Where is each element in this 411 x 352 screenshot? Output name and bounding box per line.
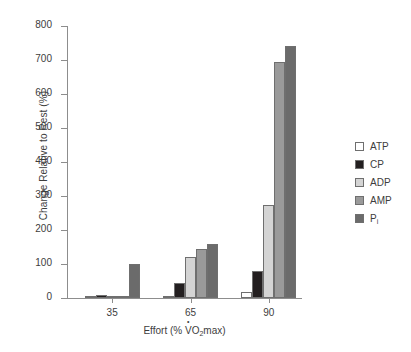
- y-axis-tick: 800: [61, 26, 67, 27]
- bar-cp-90: [252, 271, 263, 298]
- legend-item-amp[interactable]: AMP: [355, 191, 392, 209]
- bar-cp-35: [96, 295, 107, 298]
- bar-pi-35: [129, 264, 140, 298]
- y-axis-tick: 500: [61, 128, 67, 129]
- y-axis-tick-label: 400: [35, 155, 52, 166]
- y-axis-tick-label: 0: [46, 291, 52, 302]
- y-axis-tick: 300: [61, 196, 67, 197]
- bar-amp-90: [274, 62, 285, 298]
- bar-pi-65: [207, 244, 218, 298]
- x-axis-title-suffix: max): [203, 325, 225, 336]
- x-axis-tick-label: 65: [185, 307, 196, 318]
- y-axis-tick: 0: [61, 298, 67, 299]
- bar-adp-65: [185, 257, 196, 298]
- y-axis-tick-label: 700: [35, 53, 52, 64]
- bar-adp-35: [107, 296, 118, 298]
- bar-amp-35: [118, 296, 129, 298]
- y-axis-tick-label: 100: [35, 257, 52, 268]
- chart-figure: Change Relative to Rest (%) 010020030040…: [0, 0, 411, 352]
- bar-cp-65: [174, 283, 185, 298]
- bar-adp-90: [263, 205, 274, 298]
- vdot-icon: V: [185, 325, 192, 336]
- legend-item-pi[interactable]: Pi: [355, 209, 392, 227]
- x-axis-tick-label: 90: [263, 307, 274, 318]
- x-axis-tick: [112, 298, 113, 303]
- x-axis-title-prefix: Effort (%: [143, 325, 185, 336]
- bar-atp-35: [85, 296, 96, 298]
- legend-subscript: i: [377, 218, 379, 225]
- x-axis-line: [67, 298, 302, 299]
- plot-area: 0100200300400500600700800 356590: [67, 26, 302, 298]
- legend-swatch-icon: [355, 196, 364, 205]
- legend-swatch-icon: [355, 214, 364, 223]
- y-axis-tick-label: 300: [35, 189, 52, 200]
- legend-item-label: Pi: [370, 213, 378, 224]
- chart-legend: ATPCPADPAMPPi: [355, 137, 392, 227]
- legend-item-label: ADP: [370, 177, 391, 188]
- y-axis-tick-label: 600: [35, 87, 52, 98]
- x-axis-title: Effort (% VO2max): [67, 325, 302, 336]
- x-axis-tick-label: 35: [107, 307, 118, 318]
- y-axis-tick: 200: [61, 230, 67, 231]
- legend-swatch-icon: [355, 142, 364, 151]
- legend-item-adp[interactable]: ADP: [355, 173, 392, 191]
- bar-amp-65: [196, 249, 207, 298]
- legend-item-atp[interactable]: ATP: [355, 137, 392, 155]
- y-axis-tick: 700: [61, 60, 67, 61]
- legend-item-cp[interactable]: CP: [355, 155, 392, 173]
- y-axis-tick: 400: [61, 162, 67, 163]
- y-axis-tick-label: 800: [35, 19, 52, 30]
- legend-item-label: AMP: [370, 195, 392, 206]
- bar-atp-65: [163, 296, 174, 298]
- bar-atp-90: [241, 292, 252, 298]
- y-axis-tick-label: 200: [35, 223, 52, 234]
- x-axis-tick: [269, 298, 270, 303]
- x-axis-tick: [191, 298, 192, 303]
- legend-swatch-icon: [355, 160, 364, 169]
- legend-swatch-icon: [355, 178, 364, 187]
- bar-pi-90: [285, 46, 296, 298]
- y-axis-tick-label: 500: [35, 121, 52, 132]
- legend-item-label: CP: [370, 159, 384, 170]
- x-axis-title-subscript: 2: [199, 330, 203, 337]
- y-axis-tick: 600: [61, 94, 67, 95]
- legend-item-label: ATP: [370, 141, 389, 152]
- y-axis-tick: 100: [61, 264, 67, 265]
- y-axis-line: [67, 26, 68, 298]
